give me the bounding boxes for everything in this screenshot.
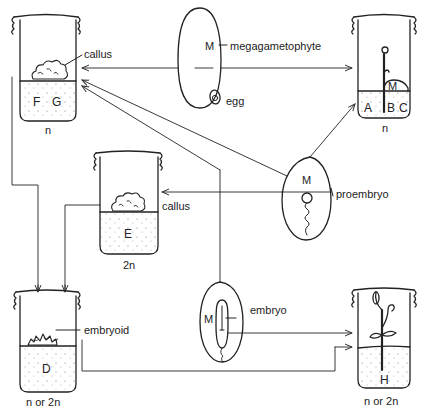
tissue-culture-diagram: callus F G n M megagametophyte egg M A B…	[0, 0, 425, 411]
label-c: C	[399, 102, 408, 114]
label-embryoid: embryoid	[84, 324, 129, 336]
label-abc-m: M	[388, 80, 397, 92]
label-embryo: embryo	[250, 304, 287, 316]
label-callus-top: callus	[84, 48, 112, 60]
label-mid-m: M	[302, 174, 311, 186]
label-egg: egg	[226, 95, 244, 107]
vessel-d	[14, 290, 81, 392]
label-top-m: M	[205, 40, 214, 52]
embryoid-icon	[28, 334, 57, 345]
callus-e-icon	[112, 193, 145, 211]
label-b: B	[387, 102, 395, 114]
ovule-top	[178, 8, 227, 108]
label-d-ploidy: n or 2n	[26, 396, 60, 408]
diagram-canvas	[0, 0, 425, 411]
label-h-ploidy: n or 2n	[364, 395, 398, 407]
vessel-fg	[12, 15, 81, 122]
ovule-middle	[282, 157, 331, 240]
label-proembryo: proembryo	[336, 188, 389, 200]
label-e-ploidy: 2n	[123, 259, 135, 271]
label-abc-ploidy: n	[382, 122, 388, 134]
label-megagametophyte: megagametophyte	[230, 40, 321, 52]
label-h: H	[380, 374, 389, 386]
arrow-mid-to-fg	[82, 80, 287, 176]
label-f: F	[33, 96, 40, 108]
callus-top-leader	[65, 55, 82, 65]
label-bot-m: M	[204, 313, 213, 325]
label-callus-mid: callus	[162, 200, 190, 212]
label-e: E	[124, 228, 132, 240]
label-fg-ploidy: n	[45, 124, 51, 136]
label-d: D	[42, 363, 51, 375]
label-a: A	[364, 102, 372, 114]
arrow-bottom-to-fg	[82, 86, 220, 170]
arrow-mid-to-abc	[310, 104, 355, 157]
label-g: G	[52, 96, 61, 108]
